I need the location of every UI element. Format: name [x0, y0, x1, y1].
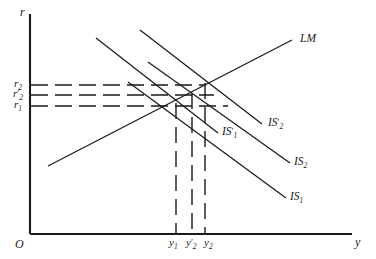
curve-is1-base: IS	[290, 190, 300, 202]
tick-label-y1: y1	[169, 237, 178, 248]
is2-prime-curve	[140, 30, 262, 124]
curve-is1p-base: IS	[222, 125, 232, 137]
tick-y2-sub: 2	[209, 242, 213, 251]
curve-lm-base: LM	[300, 32, 316, 44]
is1-curve	[128, 82, 286, 198]
y-axis-label: r	[20, 6, 25, 18]
curve-label-is2: IS2	[294, 156, 307, 168]
curve-is1-sub: 1	[300, 196, 304, 205]
tick-r1-sub: 1	[18, 104, 22, 113]
tick-label-y2-prime: y′2	[186, 237, 197, 248]
curve-label-lm: LM	[300, 33, 316, 45]
is-lm-figure: r y O r2 r′2 r1 y1 y′2 y2 LM IS′1 IS′2 I…	[0, 0, 376, 259]
curve-is2p-sub: 2	[280, 122, 284, 131]
curve-label-is1: IS1	[290, 191, 303, 203]
tick-label-r1: r1	[14, 99, 22, 110]
curve-label-is2-prime: IS′2	[268, 117, 283, 129]
diagram-canvas	[0, 0, 376, 259]
curve-is2-sub: 2	[304, 161, 308, 170]
origin-label: O	[15, 238, 24, 250]
tick-y1-sub: 1	[174, 242, 178, 251]
tick-y2p-sub: 2	[193, 242, 197, 251]
curve-is1p-sub: 1	[234, 131, 238, 140]
lm-curve	[48, 40, 292, 166]
curve-is2p-base: IS	[268, 116, 278, 128]
tick-label-y2: y2	[204, 237, 213, 248]
curve-is2-base: IS	[294, 155, 304, 167]
curve-label-is1-prime: IS′1	[222, 126, 237, 138]
x-axis-label: y	[355, 236, 360, 248]
